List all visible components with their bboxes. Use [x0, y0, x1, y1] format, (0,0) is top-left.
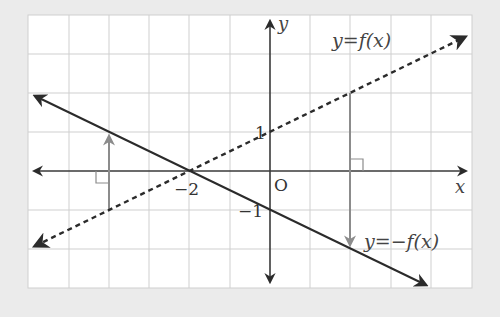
svg-text:y=−f(x): y=−f(x): [363, 230, 439, 252]
x-axis-label: x: [455, 176, 465, 197]
reflection-diagram: y x O −2 1 −1 y=f(x) y=−f(x): [0, 0, 500, 317]
tick-label-y-minus1: −1: [238, 201, 263, 221]
tick-label-y-plus1: 1: [255, 123, 266, 143]
y-axis-label: y: [277, 13, 289, 34]
origin-label: O: [274, 175, 288, 195]
svg-text:y=f(x): y=f(x): [331, 29, 391, 51]
curve-f-label: y=f(x): [331, 29, 391, 51]
tick-label-x-minus2: −2: [174, 179, 199, 199]
curve-neg-f-label: y=−f(x): [363, 230, 439, 252]
